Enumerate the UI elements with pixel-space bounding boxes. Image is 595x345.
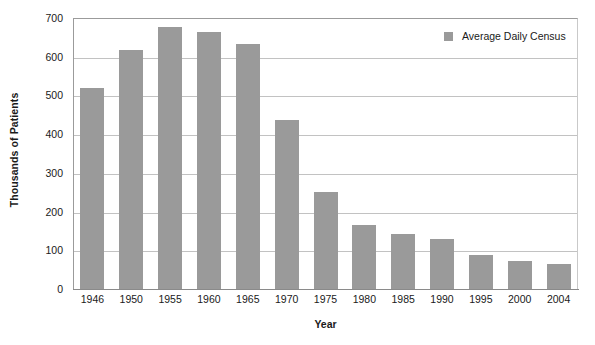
- legend-label-average-daily-census: Average Daily Census: [462, 30, 566, 42]
- y-axis-tick-label: 200: [23, 206, 63, 218]
- bar: [80, 88, 104, 289]
- x-axis-tick-label: 1990: [420, 293, 464, 305]
- x-axis-tick-label: 1970: [265, 293, 309, 305]
- y-axis-tick-label: 300: [23, 167, 63, 179]
- y-axis-tick-label: 500: [23, 89, 63, 101]
- x-axis-tick-label: 1995: [459, 293, 503, 305]
- x-axis-tick-label: 2004: [537, 293, 581, 305]
- bar: [197, 32, 221, 289]
- bars-layer: [73, 0, 578, 289]
- legend-swatch-average-daily-census: [444, 32, 453, 41]
- bar: [314, 192, 338, 289]
- y-axis-tick-label: 400: [23, 128, 63, 140]
- bar: [352, 225, 376, 289]
- x-axis-tick-label: 1946: [70, 293, 114, 305]
- bar: [508, 261, 532, 289]
- y-axis-tick-label: 100: [23, 244, 63, 256]
- y-axis-tick-label: 600: [23, 51, 63, 63]
- y-axis-title-label: Thousands of Patients: [8, 93, 20, 208]
- chart-legend: Average Daily Census: [444, 30, 566, 42]
- bar: [158, 27, 182, 289]
- bar: [430, 239, 454, 289]
- bar: [275, 120, 299, 289]
- bar: [119, 50, 143, 289]
- x-axis-title: Year: [73, 318, 578, 330]
- bar: [469, 255, 493, 289]
- x-axis-tick-label: 1980: [342, 293, 386, 305]
- bar: [391, 234, 415, 289]
- x-axis-tick-label: 1955: [148, 293, 192, 305]
- x-axis-tick-label: 1950: [109, 293, 153, 305]
- y-axis-tick-labels: 0100200300400500600700: [28, 0, 68, 300]
- bar: [547, 264, 571, 289]
- x-axis-tick-label: 1975: [304, 293, 348, 305]
- bar: [236, 44, 260, 289]
- x-axis-tick-label: 2000: [498, 293, 542, 305]
- x-axis-tick-label: 1985: [381, 293, 425, 305]
- x-axis-tick-label: 1965: [226, 293, 270, 305]
- y-axis-tick-label: 700: [23, 12, 63, 24]
- bar-chart: Thousands of Patients 010020030040050060…: [0, 0, 595, 345]
- x-axis-line: [73, 289, 579, 290]
- y-axis-tick-label: 0: [23, 283, 63, 295]
- x-axis-tick-label: 1960: [187, 293, 231, 305]
- x-axis-tick-labels: 1946195019551960196519701975198019851990…: [73, 293, 578, 309]
